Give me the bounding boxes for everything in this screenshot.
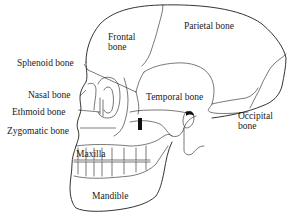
label-temporal-bone: Temporal bone bbox=[146, 92, 203, 102]
ear-canal-fill bbox=[186, 111, 194, 116]
maxilla-outline bbox=[76, 134, 172, 146]
label-occipital-bone: Occipital bone bbox=[238, 111, 273, 131]
occipital-boundary bbox=[212, 88, 258, 104]
label-zygomatic-bone: Zygomatic bone bbox=[7, 126, 69, 136]
face-profile bbox=[70, 62, 172, 211]
ethmoid-lines bbox=[100, 98, 103, 116]
zygomatic-mark bbox=[138, 118, 142, 130]
zygomatic-arch bbox=[130, 110, 192, 114]
coronal-suture bbox=[142, 5, 163, 66]
label-frontal-line2: bone bbox=[108, 42, 135, 52]
label-occipital-line2: bone bbox=[238, 121, 273, 131]
label-occipital-line1: Occipital bbox=[238, 111, 273, 121]
temporal-outline bbox=[144, 63, 248, 114]
label-maxilla: Maxilla bbox=[76, 149, 106, 159]
nasal-bone-lines bbox=[88, 83, 96, 110]
orbit-inner bbox=[104, 87, 114, 113]
leader-ethmoid bbox=[78, 110, 100, 112]
label-parietal-bone: Parietal bone bbox=[184, 21, 234, 31]
zygomatic-outline bbox=[114, 78, 128, 136]
label-mandible: Mandible bbox=[92, 191, 128, 201]
label-sphenoid-bone: Sphenoid bone bbox=[17, 58, 74, 68]
label-ethmoid-bone: Ethmoid bone bbox=[12, 107, 66, 117]
lambdoid-suture bbox=[250, 54, 286, 108]
label-frontal-bone: Frontal bone bbox=[108, 32, 135, 52]
label-nasal-bone: Nasal bone bbox=[28, 90, 70, 100]
sphenoid-suture bbox=[88, 70, 136, 92]
mastoid-process bbox=[184, 128, 204, 155]
pterion-sutures bbox=[136, 72, 144, 114]
label-frontal-line1: Frontal bbox=[108, 32, 135, 42]
